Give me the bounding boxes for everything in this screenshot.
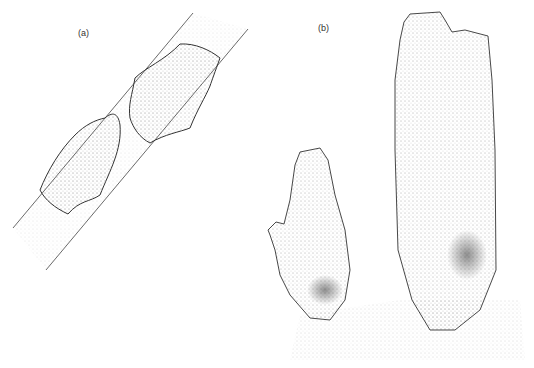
panel-a-drawing: [13, 13, 248, 270]
illustration: [0, 0, 534, 368]
panel-b-drawing: [268, 12, 525, 360]
